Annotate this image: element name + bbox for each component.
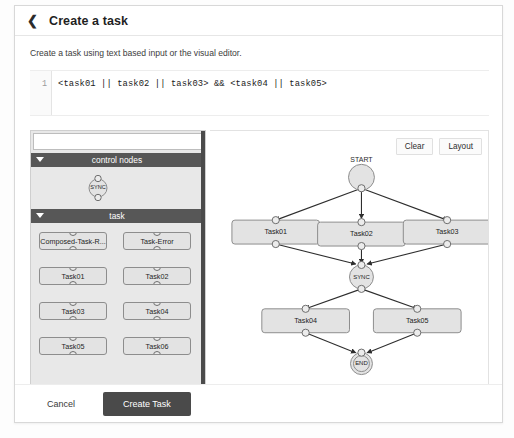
editor-gutter: 1 [30,71,52,115]
node-port-bottom [302,329,309,336]
node-port-top[interactable] [153,337,161,341]
palette-node-label: Task02 [146,272,169,281]
editor-line-number: 1 [42,79,47,89]
node-port-bottom[interactable] [153,281,161,285]
palette-scrollbar[interactable] [201,131,205,384]
clear-button[interactable]: Clear [396,138,434,155]
graph-node-task04[interactable]: Task04 [262,305,350,336]
palette-node-label: Task05 [62,342,85,351]
node-port-bottom[interactable] [69,351,77,355]
palette-node-label: Task-Error [140,237,173,246]
flow-canvas[interactable]: Clear Layout [210,130,489,385]
node-port-top[interactable] [69,232,77,236]
node-port-bottom [358,242,365,249]
node-port-top [358,261,365,268]
node-port-bottom[interactable] [153,316,161,320]
graph-node-end-label: END [355,360,368,366]
graph-node-task03-label: Task03 [436,228,459,236]
node-port-top[interactable] [69,302,77,306]
node-port-top[interactable] [153,302,161,306]
palette-node-composed-task-r[interactable]: Composed-Task-R... [39,232,107,250]
node-port-top [358,219,365,226]
node-port-bottom[interactable] [69,281,77,285]
graph-node-task05-label: Task05 [406,317,429,325]
graph-node-task01[interactable]: Task01 [232,217,320,248]
palette-group-header-task[interactable]: task [31,209,203,223]
graph-node-task03[interactable]: Task03 [403,217,488,248]
page-title: Create a task [49,14,128,28]
graph-node-sync-label: SYNC [353,274,370,280]
palette-group-title: task [109,211,124,221]
palette-node-task06[interactable]: Task06 [123,337,191,355]
palette-node-task04[interactable]: Task04 [123,302,191,320]
chevron-left-icon[interactable]: ❮ [27,14,49,27]
flow-graph: START Task01 Task02 [210,131,488,384]
graph-node-sync[interactable]: SYNC [349,261,373,292]
palette-node-label: Composed-Task-R... [40,237,106,246]
layout-button[interactable]: Layout [439,138,482,155]
graph-node-task05[interactable]: Task05 [373,305,461,336]
node-port-bottom[interactable] [69,246,77,250]
editor-code-line[interactable]: <task01 || task02 || task03> && <task04 … [58,79,327,89]
graph-node-task02-label: Task02 [350,230,373,238]
palette-node-sync-label: SYNC [90,184,106,190]
node-port-top[interactable] [69,337,77,341]
canvas-toolbar: Clear Layout [396,138,482,155]
graph-node-start-label: START [350,156,373,163]
palette-node-label: Task04 [146,307,169,316]
cancel-button[interactable]: Cancel [35,393,87,415]
node-port-bottom [444,240,451,247]
caret-down-icon [36,157,44,162]
palette-node-task-error[interactable]: Task-Error [123,232,191,250]
palette-node-task01[interactable]: Task01 [39,267,107,285]
graph-node-task02[interactable]: Task02 [318,219,406,250]
graph-node-end[interactable]: END [350,349,372,375]
node-port-top [302,305,309,312]
node-port-bottom [358,185,365,192]
palette-node-label: Task06 [146,342,169,351]
node-port-top[interactable] [69,267,77,271]
visual-designer: control nodes SYNC task [30,130,489,385]
palette-node-task03[interactable]: Task03 [39,302,107,320]
app-screen: ❮ Create a task Create a task using text… [0,0,514,438]
graph-node-start[interactable]: START [349,156,375,191]
palette-search-input[interactable] [33,133,203,150]
node-port-top [358,349,365,356]
palette-node-task05[interactable]: Task05 [39,337,107,355]
palette-node-task02[interactable]: Task02 [123,267,191,285]
node-port-top [444,217,451,224]
create-task-button[interactable]: Create Task [103,392,191,416]
card-footer: Cancel Create Task [15,384,502,422]
node-port-bottom [414,329,421,336]
node-port-top [272,217,279,224]
description-text: Create a task using text based input or … [30,48,242,58]
palette-group-header-control-nodes[interactable]: control nodes [31,153,203,167]
palette-group-title: control nodes [92,155,142,165]
graph-node-task01-label: Task01 [264,228,287,236]
node-port-bottom [358,285,365,292]
node-port-bottom [272,240,279,247]
graph-node-task04-label: Task04 [294,317,317,325]
palette-node-label: Task03 [62,307,85,316]
node-port-top[interactable] [153,232,161,236]
code-editor[interactable]: 1 <task01 || task02 || task03> && <task0… [30,70,489,116]
node-port-bottom[interactable] [153,351,161,355]
palette-node-sync[interactable]: SYNC [85,175,111,201]
palette-node-label: Task01 [62,272,85,281]
caret-down-icon [36,213,44,218]
card-header: ❮ Create a task [15,6,502,36]
node-port-top [414,305,421,312]
node-port-top[interactable] [153,267,161,271]
node-port-bottom[interactable] [69,316,77,320]
create-task-card: ❮ Create a task Create a task using text… [14,5,503,423]
node-port-bottom[interactable] [153,246,161,250]
node-palette: control nodes SYNC task [30,130,206,385]
